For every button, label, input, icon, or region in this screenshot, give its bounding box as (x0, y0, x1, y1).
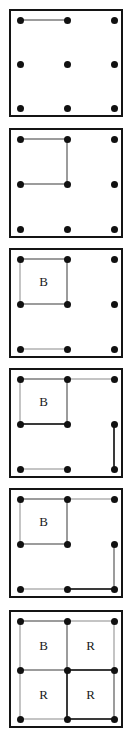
dot-d20 (111, 618, 118, 625)
edge-h-c0-r0[interactable] (20, 258, 67, 260)
board-panel-2 (9, 128, 123, 238)
dot-d00 (17, 136, 24, 143)
edge-v-c1-r0[interactable] (66, 621, 68, 670)
cell-label-c0-r0: B (31, 638, 57, 654)
dot-d11 (64, 667, 71, 674)
board-panel-4: B (9, 368, 123, 478)
dot-d10 (64, 256, 71, 263)
dot-d10 (64, 618, 71, 625)
edge-v-c1-r0[interactable] (66, 139, 68, 184)
dot-d21 (111, 541, 118, 548)
dot-d11 (64, 541, 71, 548)
board-panel-5: B (9, 488, 123, 598)
edge-v-c0-r0[interactable] (19, 621, 21, 670)
edge-v-c0-r0[interactable] (19, 499, 21, 544)
edge-h-c0-r2[interactable] (20, 718, 67, 720)
dot-d11 (64, 181, 71, 188)
edge-h-c0-r0[interactable] (20, 378, 67, 380)
dot-d00 (17, 17, 24, 24)
dot-d10 (64, 17, 71, 24)
dot-d22 (111, 586, 118, 593)
edge-h-c1-r0[interactable] (67, 498, 114, 500)
dot-d00 (17, 256, 24, 263)
dot-d21 (111, 181, 118, 188)
edge-h-c0-r2[interactable] (20, 588, 67, 590)
dot-d12 (64, 716, 71, 723)
cell-label-c0-r0: B (31, 274, 57, 290)
dot-d21 (111, 421, 118, 428)
edge-h-c0-r2[interactable] (20, 468, 67, 470)
dot-d21 (111, 61, 118, 68)
dot-d11 (64, 421, 71, 428)
dot-d21 (111, 301, 118, 308)
edge-h-c1-r2[interactable] (67, 588, 114, 590)
edge-v-c1-r0[interactable] (66, 259, 68, 304)
board-panel-3: B (9, 248, 123, 358)
dot-d10 (64, 496, 71, 503)
dot-d22 (111, 105, 118, 112)
dot-d10 (64, 376, 71, 383)
dot-d20 (111, 496, 118, 503)
edge-h-c0-r0[interactable] (20, 620, 67, 622)
dot-d11 (64, 301, 71, 308)
dot-d22 (111, 346, 118, 353)
edge-v-c0-r0[interactable] (19, 259, 21, 304)
edge-h-c0-r1[interactable] (20, 669, 67, 671)
dot-d01 (17, 541, 24, 548)
board-panel-1 (9, 9, 123, 117)
cell-label-c0-r0: B (31, 394, 57, 410)
dot-d02 (17, 226, 24, 233)
dot-d20 (111, 256, 118, 263)
cell-label-c1-r0: R (78, 638, 104, 654)
edge-h-c0-r0[interactable] (20, 138, 67, 140)
dot-d12 (64, 466, 71, 473)
dot-d20 (111, 376, 118, 383)
dot-d02 (17, 105, 24, 112)
edge-v-c1-r0[interactable] (66, 499, 68, 544)
dot-d12 (64, 226, 71, 233)
dot-d21 (111, 667, 118, 674)
board-panel-6: BRRR (9, 610, 123, 728)
dot-d01 (17, 61, 24, 68)
edge-h-c0-r1[interactable] (20, 543, 67, 545)
dot-d00 (17, 618, 24, 625)
dot-d12 (64, 586, 71, 593)
edge-h-c0-r0[interactable] (20, 19, 67, 21)
edge-h-c1-r2[interactable] (67, 718, 114, 720)
edge-h-c0-r1[interactable] (20, 303, 67, 305)
dot-d00 (17, 376, 24, 383)
edge-v-c2-r0[interactable] (113, 621, 115, 670)
cell-label-c1-r1: R (78, 687, 104, 703)
edge-v-c2-r1[interactable] (113, 670, 115, 719)
edge-v-c2-r1[interactable] (113, 544, 115, 589)
edge-v-c2-r1[interactable] (113, 424, 115, 469)
dot-d20 (111, 17, 118, 24)
dot-d02 (17, 466, 24, 473)
dot-d02 (17, 586, 24, 593)
edge-h-c1-r0[interactable] (67, 620, 114, 622)
dot-d20 (111, 136, 118, 143)
dot-d02 (17, 716, 24, 723)
edge-h-c0-r1[interactable] (20, 423, 67, 425)
edge-h-c1-r0[interactable] (67, 378, 114, 380)
edge-h-c0-r2[interactable] (20, 348, 67, 350)
dot-d01 (17, 181, 24, 188)
dot-d22 (111, 226, 118, 233)
dot-d12 (64, 346, 71, 353)
edge-v-c1-r1[interactable] (66, 670, 68, 719)
dot-d10 (64, 136, 71, 143)
dot-d11 (64, 61, 71, 68)
dot-d00 (17, 496, 24, 503)
dots-and-boxes-figure: BBBBRRR (0, 0, 133, 738)
edge-h-c0-r0[interactable] (20, 498, 67, 500)
dot-d02 (17, 346, 24, 353)
edge-h-c0-r1[interactable] (20, 183, 67, 185)
edge-v-c0-r0[interactable] (19, 379, 21, 424)
edge-v-c1-r0[interactable] (66, 379, 68, 424)
dot-d22 (111, 466, 118, 473)
dot-d12 (64, 105, 71, 112)
cell-label-c0-r1: R (31, 687, 57, 703)
edge-v-c0-r1[interactable] (19, 670, 21, 719)
dot-d01 (17, 667, 24, 674)
edge-h-c1-r1[interactable] (67, 669, 114, 671)
